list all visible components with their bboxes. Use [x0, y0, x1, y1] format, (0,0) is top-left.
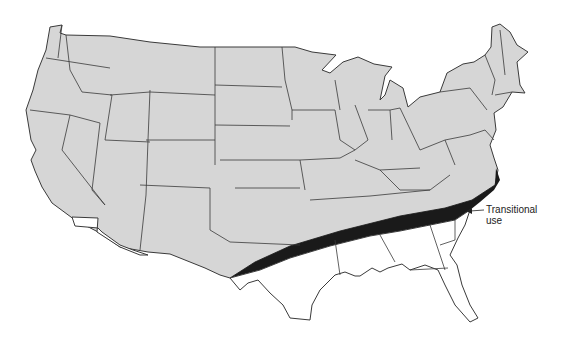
label-line2: use	[486, 215, 537, 226]
us-map	[0, 0, 562, 339]
label-line1: Transitional	[486, 204, 537, 215]
transitional-use-label: Transitional use	[486, 204, 537, 226]
